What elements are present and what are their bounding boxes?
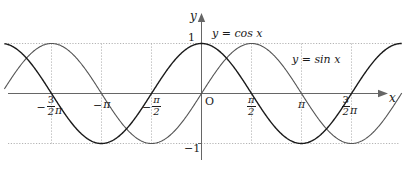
sin-equation-text: y = sin x <box>292 53 340 66</box>
fraction: π2 <box>152 95 161 117</box>
denominator: 2 <box>342 106 350 118</box>
denominator: 2 <box>152 106 161 118</box>
y-axis <box>198 13 205 160</box>
x-tick-label-pos-3pi-2: 32π <box>342 96 358 118</box>
pi-symbol: π <box>103 98 110 111</box>
sin-equation-label: y = sin x <box>292 54 340 65</box>
minus-sign: − <box>93 100 102 111</box>
x-tick-label-pos-pi-2: π2 <box>247 96 256 118</box>
y-tick-label-minus-1: −1 <box>184 143 200 154</box>
denominator: 2 <box>247 106 256 118</box>
numerator: 3 <box>342 95 350 106</box>
cos-equation-text: y = cos x <box>212 27 263 40</box>
trig-graph-figure: y x O 1 −1 y = cos x y = sin x −32π−π−π2… <box>0 0 404 174</box>
numerator: π <box>152 95 161 106</box>
x-tick-label-neg-pi: −π <box>93 99 110 111</box>
numerator: 3 <box>47 95 55 106</box>
fraction: 32 <box>342 95 350 117</box>
x-axis-arrow <box>378 90 388 97</box>
denominator: 2 <box>47 106 55 118</box>
y-axis-label: y <box>190 10 197 22</box>
x-axis-label: x <box>389 92 396 104</box>
fraction: π2 <box>247 95 256 117</box>
pi-symbol: π <box>350 105 357 116</box>
minus-sign: − <box>142 102 151 113</box>
plot-canvas <box>0 0 404 174</box>
origin-label: O <box>205 96 214 107</box>
x-axis <box>8 90 388 97</box>
x-tick-label-neg-3pi-2: −32π <box>37 96 63 118</box>
numerator: π <box>247 95 256 106</box>
y-axis-arrow <box>198 13 205 22</box>
pi-symbol: π <box>298 98 305 111</box>
fraction: 32 <box>47 95 55 117</box>
cos-equation-label: y = cos x <box>212 28 263 39</box>
minus-sign: − <box>37 102 46 113</box>
pi-symbol: π <box>55 105 62 116</box>
x-tick-label-pos-pi: π <box>298 99 305 110</box>
x-tick-label-neg-pi-2: −π2 <box>142 96 161 118</box>
y-tick-label-1: 1 <box>188 32 195 43</box>
